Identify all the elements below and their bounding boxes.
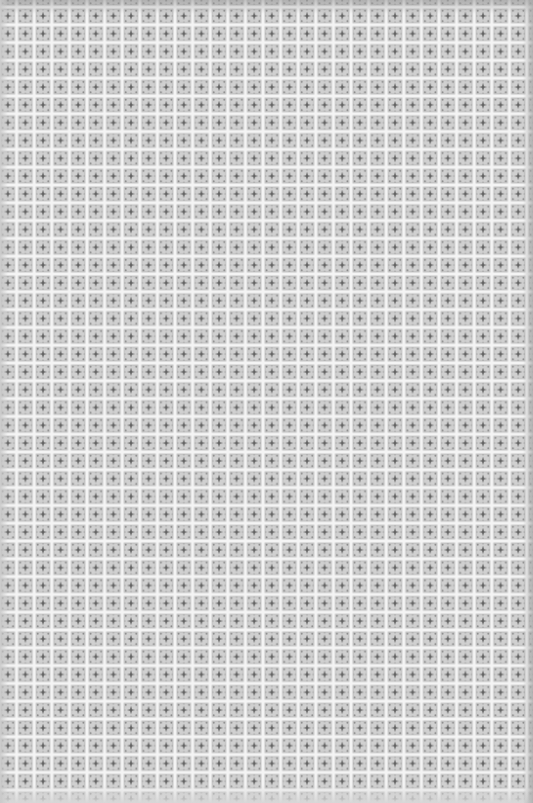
tile-pattern (0, 0, 533, 803)
tile-pattern-image (0, 0, 533, 803)
